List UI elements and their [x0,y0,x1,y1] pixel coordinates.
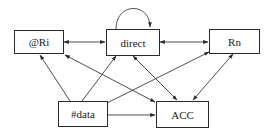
edge-data-ri [40,55,70,101]
node-rn: Rn [209,29,260,54]
node-direct-label: direct [120,37,145,49]
node-data: #data [58,101,108,127]
node-ri-label: @Ri [29,36,50,48]
edges-layer [0,0,269,140]
edge-rn-acc [193,54,233,100]
node-acc: ACC [156,101,209,128]
edge-ri-acc [65,55,155,102]
node-direct: direct [106,29,160,56]
edge-direct-acc [133,56,177,100]
node-acc-label: ACC [171,109,194,121]
node-rn-label: Rn [228,36,241,48]
node-ri: @Ri [14,30,64,54]
node-data-label: #data [71,108,95,120]
edge-data-rn [107,52,209,103]
edge-direct-self-loop [116,8,150,29]
